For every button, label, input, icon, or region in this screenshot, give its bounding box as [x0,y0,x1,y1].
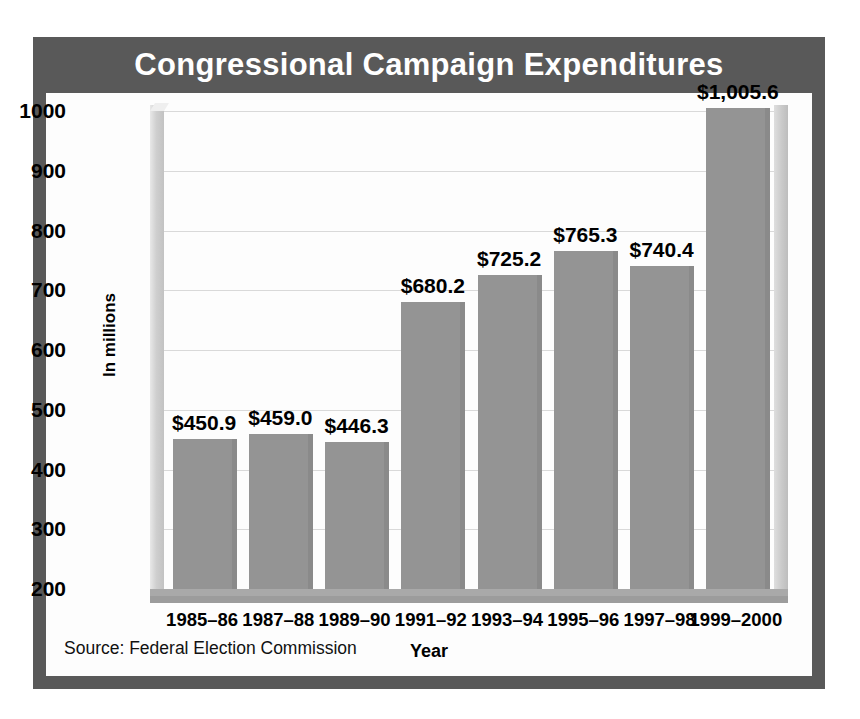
x-axis-tick-label: 1991–92 [395,609,467,631]
y-axis-tick-label: 400 [0,458,66,482]
y-axis-tick-label: 900 [0,159,66,183]
bar [325,442,384,589]
bar [401,302,460,589]
bar-side-face [384,442,389,589]
bar [249,434,308,589]
bar [706,108,765,589]
gridline [164,171,774,172]
x-axis-tick-label: 1997–98 [624,609,696,631]
y-axis-tick-label: 300 [0,517,66,541]
bar-value-label: $446.3 [325,414,389,438]
bar-value-label: $725.2 [477,247,541,271]
x-axis-tick-label: 1987–88 [242,609,314,631]
y-axis-tick-label: 1000 [0,99,66,123]
axis-floor-front [150,596,788,603]
bar-value-label: $680.2 [401,274,465,298]
bar-side-face [308,434,313,589]
bar-value-label: $1,005.6 [697,80,779,104]
gridline [164,111,774,112]
bar-value-label: $765.3 [553,223,617,247]
x-axis-tick-label: 1999–2000 [690,609,783,631]
bar-value-label: $450.9 [172,411,236,435]
y-axis-tick-label: 700 [0,278,66,302]
bar-side-face [460,302,465,589]
gridline [164,231,774,232]
y-axis-title: In millions [100,293,120,377]
bar-value-label: $740.4 [630,238,694,262]
bar [554,251,613,589]
x-axis-tick-label: 1985–86 [166,609,238,631]
page-title: Congressional Campaign Expenditures [134,47,723,83]
x-axis-tick-label: 1989–90 [319,609,391,631]
y-axis-tick-label: 800 [0,219,66,243]
bar-side-face [613,251,618,589]
y-axis-tick-label: 600 [0,338,66,362]
y-axis-tick-label: 500 [0,398,66,422]
bar [630,266,689,589]
axis-wall-left-top [150,103,169,111]
bar-side-face [765,108,770,589]
bar [173,439,232,589]
source-note: Source: Federal Election Commission [64,638,357,659]
bar-side-face [689,266,694,589]
chart-figure: Congressional Campaign Expenditures In m… [33,37,825,689]
plot-area: $450.9$459.0$446.3$680.2$725.2$765.3$740… [164,111,774,589]
bar-value-label: $459.0 [248,406,312,430]
axis-wall-left [150,105,164,597]
chart-panel: In millions 1000900800700600500400300200… [46,93,812,676]
x-axis-tick-label: 1993–94 [471,609,543,631]
bar-side-face [537,275,542,589]
x-axis-tick-label: 1995–96 [547,609,619,631]
axis-wall-right [774,105,788,597]
y-axis-tick-label: 200 [0,577,66,601]
bar [478,275,537,589]
bar-side-face [232,439,237,589]
